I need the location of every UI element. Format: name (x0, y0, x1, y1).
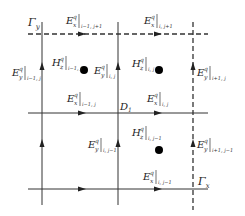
svg-text:i, j: i, j (109, 73, 116, 80)
svg-text:z: z (59, 63, 64, 70)
label-ex-i-j+1: E q x i, j+1 (143, 13, 173, 30)
node-icon (155, 146, 163, 154)
svg-text:i, j+1: i, j+1 (159, 23, 173, 30)
arrow-icon (78, 187, 86, 192)
svg-text:i−1, j: i−1, j (27, 75, 41, 82)
svg-text:q: q (150, 169, 154, 177)
label-ey-i-j-1: E q y i, j−1 (87, 137, 117, 154)
svg-text:i−1, j: i−1, j (82, 101, 96, 108)
svg-text:q: q (151, 13, 155, 21)
svg-text:i−1, j: i−1, j (68, 65, 82, 72)
svg-text:q: q (204, 65, 208, 73)
label-ex-i-1-j: E q x i−1, j (66, 91, 96, 108)
arrow-icon (116, 62, 121, 70)
svg-text:q: q (60, 55, 64, 63)
label-hz-i-j-1: H q z i, j−1 (131, 125, 162, 142)
gamma-y-label: Γy (27, 16, 41, 31)
svg-text:i−1, j+1: i−1, j+1 (81, 23, 102, 30)
svg-text:q: q (74, 91, 78, 99)
svg-text:y: y (94, 145, 99, 153)
svg-text:q: q (154, 91, 158, 99)
svg-text:q: q (101, 63, 105, 71)
svg-text:i, j−1: i, j−1 (148, 135, 162, 142)
svg-text:q: q (19, 65, 23, 73)
arrow-icon (78, 111, 86, 116)
svg-text:x: x (150, 177, 154, 184)
svg-text:x: x (151, 21, 155, 28)
arrow-icon (191, 62, 196, 70)
label-ex-i-1-j+1: E q x i−1, j+1 (65, 13, 102, 30)
label-ey-i+1-j-1: E q y i+1, j−1 (196, 137, 233, 154)
svg-text:q: q (140, 56, 144, 64)
label-ey-i+1-j: E q y i+1, j (196, 65, 226, 82)
arrow-icon (154, 32, 162, 37)
svg-text:q: q (140, 125, 144, 133)
fdtd-grid-diagram: Γy Γx D1 E q x i−1, j+1 E q x i, j+1 E q… (0, 0, 245, 216)
svg-text:i, j: i, j (148, 66, 155, 73)
svg-text:i, j: i, j (162, 101, 169, 108)
node-icon (155, 66, 163, 74)
label-ex-i-j: E q x i, j (146, 91, 169, 108)
svg-text:x: x (74, 99, 78, 106)
svg-text:z: z (139, 133, 144, 140)
arrow-icon (116, 139, 121, 147)
svg-text:x: x (154, 99, 158, 106)
svg-text:i+1, j−1: i+1, j−1 (212, 147, 233, 154)
svg-text:i, j−1: i, j−1 (158, 179, 172, 186)
label-ey-i-j: E q y i, j (93, 63, 116, 80)
label-ey-i-1-j: E q y i−1, j (11, 65, 41, 82)
label-hz-i-1-j: H q z i−1, j (51, 55, 82, 72)
grid-lines (28, 22, 208, 210)
svg-text:q: q (204, 137, 208, 145)
label-hz-i-j: H q z i, j (131, 56, 155, 73)
arrow-icon (40, 139, 45, 147)
arrow-icon (78, 32, 86, 37)
svg-text:y: y (18, 73, 23, 81)
svg-text:y: y (203, 145, 208, 153)
svg-text:y: y (100, 71, 105, 79)
svg-text:q: q (73, 13, 77, 21)
svg-text:y: y (203, 73, 208, 81)
arrow-icon (154, 187, 162, 192)
svg-text:i+1, j: i+1, j (212, 75, 226, 82)
arrow-icon (40, 62, 45, 70)
svg-text:z: z (139, 64, 144, 71)
svg-text:q: q (95, 137, 99, 145)
svg-text:i, j−1: i, j−1 (103, 147, 117, 154)
gamma-x-label: Γx (197, 175, 210, 190)
label-ex-i-j-1: E q x i, j−1 (142, 169, 172, 186)
arrow-icon (191, 139, 196, 147)
arrow-icon (154, 111, 162, 116)
svg-text:x: x (73, 21, 77, 28)
domain-label: D1 (119, 101, 132, 113)
